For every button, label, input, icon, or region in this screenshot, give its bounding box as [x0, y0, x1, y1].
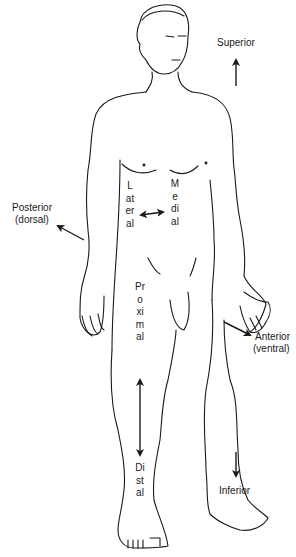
posterior-label: Posterior [12, 202, 52, 214]
anterior-alt-label: (ventral) [253, 343, 290, 355]
inferior-label: Inferior [219, 485, 250, 497]
medial-label: Medial [170, 178, 180, 228]
posterior-arrow [58, 226, 84, 240]
head-outline [137, 5, 189, 74]
human-figure-illustration [0, 0, 296, 557]
posterior-alt-label: (dorsal) [15, 214, 49, 226]
proximal-label: Proximal [135, 281, 145, 344]
right-leg-outline [111, 330, 176, 548]
distal-label: Distal [135, 462, 145, 500]
lateral-medial-arrow [141, 212, 163, 215]
lateral-label: Lateral [125, 180, 135, 230]
anterior-label: Anterior [255, 331, 290, 343]
superior-label: Superior [217, 37, 255, 49]
